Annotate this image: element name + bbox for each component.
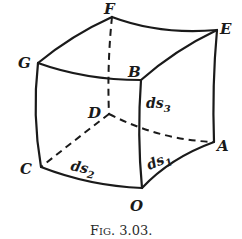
edge-B-E — [141, 30, 217, 80]
vertex-label-D: D — [87, 104, 101, 122]
hidden-edge-F-D — [108, 17, 112, 114]
edge-G-C — [36, 63, 41, 167]
curvilinear-volume-element-diagram: F E G B D A C O ds3 ds1 ds2 FIG. 3.03. — [0, 0, 242, 239]
edge-label-ds3: ds3 — [146, 95, 171, 114]
vertex-label-B: B — [127, 63, 141, 81]
edge-F-E — [112, 17, 217, 31]
edge-G-F — [38, 17, 112, 63]
vertex-label-A: A — [215, 137, 229, 155]
figure-caption: FIG. 3.03. — [90, 223, 152, 238]
edge-E-A — [213, 30, 217, 142]
vertex-label-O: O — [130, 197, 143, 215]
edge-B-O — [139, 80, 142, 188]
hidden-edge-D-A — [109, 114, 214, 142]
vertex-label-G: G — [18, 54, 31, 72]
edge-G-B — [38, 63, 141, 80]
vertex-label-F: F — [103, 0, 116, 18]
vertex-label-C: C — [20, 160, 32, 178]
vertex-label-E: E — [219, 20, 232, 38]
